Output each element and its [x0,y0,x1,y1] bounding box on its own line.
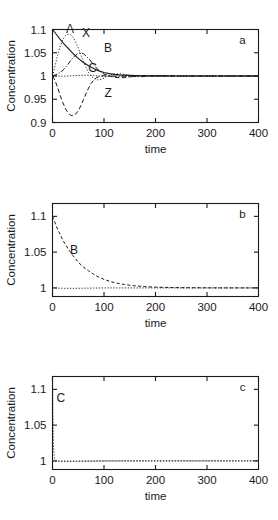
panel-a-labels: aAXBCZ [66,22,246,100]
x-axis-title: time [145,490,167,502]
y-tick-label: 0.95 [24,93,46,105]
x-tick-label: 0 [49,474,55,486]
curve-label-C: C [88,61,97,75]
x-tick-label: 300 [197,474,216,486]
x-tick-label: 100 [94,474,113,486]
y-tick-label: 1.05 [24,246,46,258]
curve-X [53,34,259,80]
x-tick-label: 0 [49,127,55,139]
y-tick-label: 1.1 [31,210,47,222]
x-tick-label: 400 [249,474,268,486]
curve-label-Z: Z [104,86,111,100]
panel-a-axes: 01002003004000.90.9511.051.1timeConcentr… [5,24,268,155]
curve-label-A: A [66,22,74,36]
figure-three-panel-concentration-time: 01002003004000.90.9511.051.1timeConcentr… [0,0,278,520]
y-tick-label: 1 [40,70,46,82]
panel-b-axes: 010020030040011.051.1timeConcentration [5,204,268,329]
x-tick-label: 200 [146,127,165,139]
panel-b-labels: bB [70,208,246,258]
panel-a-curves [53,30,259,116]
curve-C [53,377,259,462]
curve-label-C: C [56,391,65,405]
panel-c-plot: 010020030040011.051.1timeConcentration c… [0,347,278,520]
x-tick-label: 300 [197,301,216,313]
x-tick-label: 100 [94,301,113,313]
plot-frame [53,377,259,470]
y-tick-label: 1.1 [31,24,47,36]
x-tick-label: 300 [197,127,216,139]
y-tick-label: 0.9 [31,117,47,129]
y-axis-title: Concentration [5,214,17,286]
x-axis-title: time [145,143,167,155]
y-axis-title: Concentration [5,40,17,112]
panel-a-plot: 01002003004000.90.9511.051.1timeConcentr… [0,0,278,173]
panel-b-curves [53,216,259,288]
x-tick-label: 200 [146,474,165,486]
y-tick-label: 1 [40,282,46,294]
y-tick-label: 1 [40,455,46,467]
y-tick-label: 1.05 [24,419,46,431]
curve-B [53,216,259,288]
curve-B [53,53,259,77]
x-tick-label: 400 [249,127,268,139]
panel-letter: c [240,381,246,393]
panel-letter: a [239,34,246,46]
curve-Z [53,75,259,115]
panel-c-labels: cC [56,381,245,405]
plot-frame [53,204,259,297]
panel-b: 010020030040011.051.1timeConcentration b… [0,174,278,347]
y-tick-label: 1.05 [24,47,46,59]
x-tick-label: 400 [249,301,268,313]
curve-label-B: B [104,41,112,55]
curve-label-X: X [82,26,90,40]
panel-letter: b [239,208,245,220]
x-tick-label: 100 [94,127,113,139]
curve-label-B: B [70,243,78,257]
panel-c-curves [53,377,259,462]
x-tick-label: 200 [146,301,165,313]
x-axis-title: time [145,317,167,329]
panel-c: 010020030040011.051.1timeConcentration c… [0,347,278,520]
y-axis-title: Concentration [5,387,17,459]
x-tick-label: 0 [49,301,55,313]
panel-c-axes: 010020030040011.051.1timeConcentration [5,377,268,502]
panel-b-plot: 010020030040011.051.1timeConcentration b… [0,174,278,347]
y-tick-label: 1.1 [31,383,47,395]
panel-a: 01002003004000.90.9511.051.1timeConcentr… [0,0,278,173]
